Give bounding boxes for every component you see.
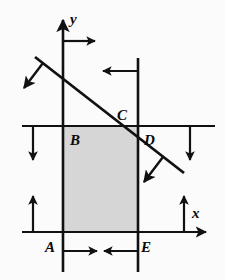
axis-label-x: x — [192, 206, 200, 221]
point-label-c: C — [117, 108, 127, 123]
point-label-d: D — [144, 133, 155, 148]
point-label-e: E — [141, 240, 151, 255]
point-label-a: A — [45, 240, 55, 255]
arrow-normal-lower — [144, 157, 163, 182]
point-label-b: B — [70, 133, 80, 148]
arrow-normal-upper — [24, 63, 43, 88]
diagram-canvas — [0, 0, 225, 280]
coordinate-geometry-diagram: y x A B C D E — [0, 0, 225, 280]
axis-label-y: y — [70, 12, 77, 27]
